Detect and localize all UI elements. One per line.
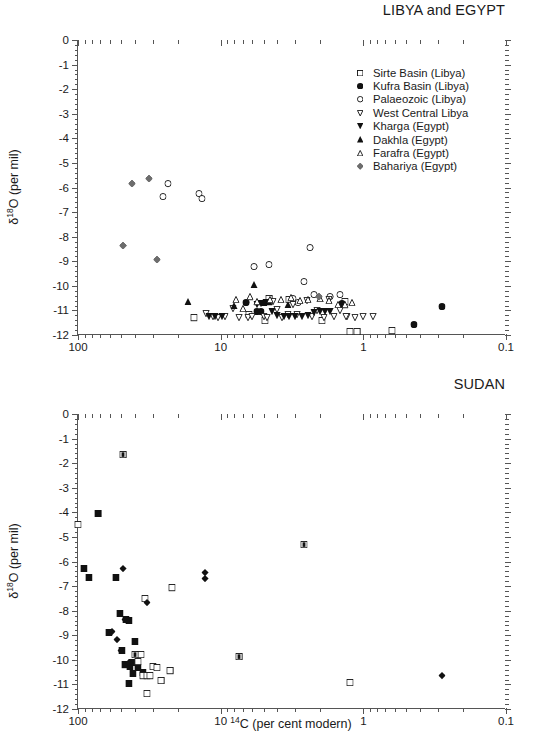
data-point: [190, 308, 197, 326]
y-tick-minor-right: [505, 291, 509, 292]
x-tick-minor: [135, 708, 136, 712]
legend-item[interactable]: Dakhla (Egypt): [349, 133, 469, 146]
y-tick-label: -1: [59, 433, 69, 445]
y-tick-minor: [75, 473, 79, 474]
y-tick-minor: [75, 281, 79, 282]
figure-caption: [12, 741, 521, 748]
y-tick-minor-right: [505, 330, 509, 331]
legend-label: Farafra (Egypt): [371, 147, 449, 159]
data-point: [125, 673, 132, 691]
legend-item[interactable]: West Central Libya: [349, 106, 469, 119]
y-tick-minor: [75, 689, 79, 690]
x-tick-label: 100: [68, 715, 87, 727]
y-tick-minor-right: [505, 517, 509, 518]
data-point: [124, 610, 131, 628]
x-tick-minor-top: [295, 40, 296, 44]
open-down-triangle-icon: [349, 110, 371, 116]
y-tick-minor-right: [505, 699, 509, 700]
y-tick-right: [505, 488, 511, 489]
y-tick-label: -12: [52, 329, 69, 341]
y-tick-minor: [75, 498, 79, 499]
x-tick: [78, 334, 79, 340]
x-tick-minor-top: [110, 40, 111, 44]
y-tick-minor-right: [505, 173, 509, 174]
legend-item[interactable]: Palaeozoic (Libya): [349, 93, 469, 106]
y-tick-minor: [75, 645, 79, 646]
y-tick-minor: [75, 183, 79, 184]
y-tick-label: -7: [59, 580, 69, 592]
y-tick-minor: [75, 227, 79, 228]
x-tick-minor: [243, 708, 244, 712]
x-tick-label: 100: [68, 341, 87, 353]
x-tick-minor: [178, 334, 179, 338]
x-tick-top: [78, 40, 79, 46]
x-tick-minor: [252, 334, 253, 338]
y-tick-right: [505, 512, 511, 513]
legend-item[interactable]: Kufra Basin (Libya): [349, 79, 469, 92]
y-tick-minor-right: [505, 630, 509, 631]
x-tick-minor-top: [110, 414, 111, 418]
panel-title-libya-egypt: LIBYA and EGYPT: [383, 2, 505, 18]
y-tick-label: -3: [59, 482, 69, 494]
y-tick-right: [505, 611, 511, 612]
y-tick-minor-right: [505, 424, 509, 425]
y-tick-right: [505, 138, 511, 139]
y-tick-minor: [75, 251, 79, 252]
y-tick-label: -11: [53, 304, 69, 316]
y-tick-right: [505, 89, 511, 90]
y-tick-minor-right: [505, 655, 509, 656]
figure-scatter-isotopes: LIBYA and EGYPT δ18O (per mil) 0-1-2-3-4…: [0, 0, 533, 748]
y-tick-minor: [75, 694, 79, 695]
y-tick-minor: [75, 301, 79, 302]
data-point: [202, 568, 209, 586]
x-tick-minor: [406, 708, 407, 712]
x-tick-minor: [264, 334, 265, 338]
y-tick-minor: [75, 581, 79, 582]
x-tick-minor-top: [264, 414, 265, 418]
y-tick-minor: [75, 325, 79, 326]
legend-item[interactable]: Sirte Basin (Libya): [349, 66, 469, 79]
y-tick-right: [505, 237, 511, 238]
legend-label: Kufra Basin (Libya): [371, 80, 469, 92]
y-tick-label: -7: [59, 206, 69, 218]
y-tick-minor-right: [505, 192, 509, 193]
x-tick-minor: [92, 334, 93, 338]
x-tick-minor: [135, 334, 136, 338]
data-point: [277, 289, 284, 307]
y-tick-minor: [75, 158, 79, 159]
y-tick-label: -5: [59, 157, 69, 169]
y-tick-label: -9: [59, 255, 69, 267]
legend-libya-egypt: Sirte Basin (Libya)Kufra Basin (Libya)Pa…: [349, 66, 469, 173]
y-tick-minor: [75, 625, 79, 626]
x-tick-label: 1: [360, 715, 366, 727]
x-tick-minor: [264, 708, 265, 712]
legend-label: Palaeozoic (Libya): [371, 93, 466, 105]
data-point: [120, 558, 127, 576]
y-tick-right: [505, 261, 511, 262]
x-axis-title: 14C (per cent modern): [230, 717, 351, 731]
y-tick-minor: [75, 50, 79, 51]
data-point: [439, 296, 446, 314]
y-tick-minor: [75, 330, 79, 331]
x-tick-minor-top: [121, 40, 122, 44]
y-tick-minor-right: [505, 670, 509, 671]
y-tick-minor: [75, 271, 79, 272]
open-up-triangle-icon: [349, 150, 371, 156]
y-tick-label: -9: [59, 629, 69, 641]
y-tick-minor: [75, 591, 79, 592]
legend-item[interactable]: Farafra (Egypt): [349, 146, 469, 159]
data-point: [239, 298, 246, 316]
legend-item[interactable]: Kharga (Egypt): [349, 120, 469, 133]
y-tick-label: -4: [59, 132, 69, 144]
y-tick-minor: [75, 148, 79, 149]
x-tick: [78, 708, 79, 714]
x-tick-minor-top: [85, 40, 86, 44]
data-point: [117, 640, 124, 658]
y-tick-minor-right: [505, 704, 509, 705]
y-tick-minor: [75, 601, 79, 602]
legend-item[interactable]: Bahariya (Egypt): [349, 160, 469, 173]
x-tick: [506, 708, 507, 714]
y-tick-right: [505, 163, 511, 164]
y-tick-label: -12: [52, 703, 69, 715]
y-tick-minor: [75, 60, 79, 61]
